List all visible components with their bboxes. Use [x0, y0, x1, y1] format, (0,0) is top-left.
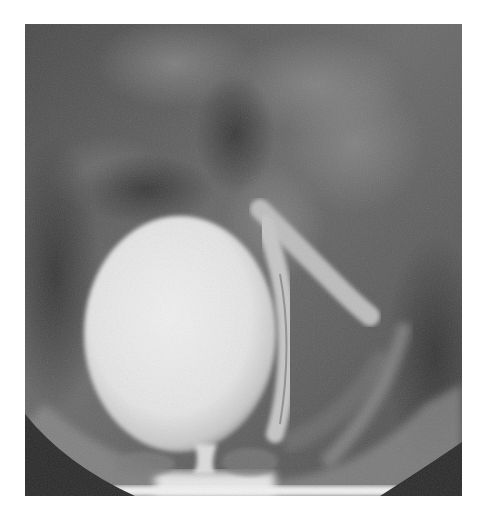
page-canvas: [0, 0, 490, 524]
xray-image: [25, 24, 462, 496]
xray-illustration: [25, 24, 462, 496]
